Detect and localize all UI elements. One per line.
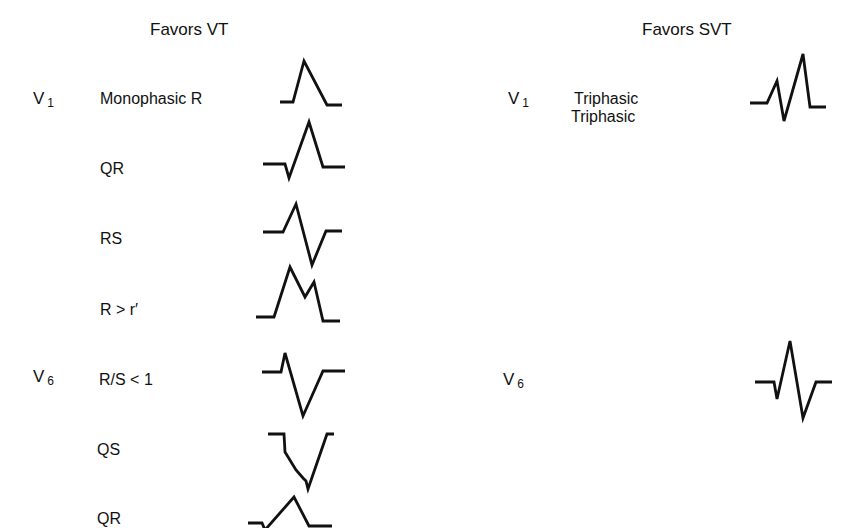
criterion-qs: QS	[97, 440, 120, 460]
lead-letter: V	[508, 89, 519, 108]
criterion-triphasic-v1: Triphasic	[574, 89, 638, 109]
r-greater-r-prime-waveform-icon	[256, 267, 340, 321]
lead-letter: V	[33, 367, 44, 386]
favors-svt-heading: Favors SVT	[642, 20, 732, 40]
lead-v1-svt: V1	[508, 89, 529, 110]
waveform-layer	[0, 0, 856, 528]
lead-letter: V	[503, 370, 514, 389]
criterion-monophasic-r: Monophasic R	[100, 89, 202, 109]
lead-subscript: 6	[47, 374, 54, 388]
lead-subscript: 1	[522, 96, 529, 110]
rs-ratio-waveform-icon	[262, 353, 345, 416]
qr-v6-waveform-icon	[248, 497, 332, 528]
favors-vt-heading: Favors VT	[150, 20, 228, 40]
criterion-triphasic-v6: Triphasic	[571, 107, 635, 127]
criterion-qr-v6: QR	[97, 509, 121, 528]
qs-waveform-icon	[268, 434, 334, 489]
lead-subscript: 6	[517, 377, 524, 391]
monophasic-r-waveform-icon	[280, 61, 342, 105]
lead-v6-vt: V6	[33, 367, 54, 388]
criterion-r-greater-r-prime: R > r′	[100, 300, 138, 320]
lead-subscript: 1	[47, 96, 54, 110]
triphasic-v1-waveform-icon	[750, 54, 826, 121]
lead-v1-vt: V1	[33, 89, 54, 110]
criterion-qr-v1: QR	[100, 159, 124, 179]
lead-letter: V	[33, 89, 44, 108]
rs-waveform-icon	[263, 204, 342, 265]
criterion-rs: RS	[100, 229, 122, 249]
triphasic-v6-waveform-icon	[755, 341, 832, 418]
criterion-rs-ratio: R/S < 1	[99, 370, 153, 390]
lead-v6-svt: V6	[503, 370, 524, 391]
qr-v1-waveform-icon	[263, 122, 345, 178]
